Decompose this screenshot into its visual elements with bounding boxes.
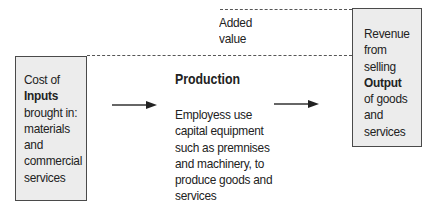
output-line: services	[364, 124, 410, 140]
arrow-head	[146, 101, 157, 109]
inputs-box-text: Cost of Inputs brought in: materials and…	[24, 72, 82, 186]
output-box: Revenue from selling Output of goods and…	[352, 8, 422, 147]
right-arrow-icon	[274, 98, 320, 110]
production-description: Employess use capital equipment such as …	[175, 107, 272, 205]
production-title: Production	[175, 71, 240, 87]
output-line: of goods	[364, 91, 410, 107]
production-line: Employess use	[175, 107, 272, 123]
added-value-bottom-dashed-line	[87, 55, 352, 56]
output-line: Revenue	[364, 26, 410, 42]
inputs-line: materials	[24, 121, 82, 137]
output-box-text: Revenue from selling Output of goods and…	[364, 26, 410, 140]
inputs-line: and	[24, 137, 82, 153]
right-arrow-icon	[112, 99, 158, 111]
output-line-bold: Output	[364, 75, 410, 91]
production-line: such as premnises	[175, 140, 272, 156]
output-line: from	[364, 42, 410, 58]
inputs-line: brought in:	[24, 105, 82, 121]
added-value-line: Added	[219, 15, 252, 31]
inputs-line-bold: Inputs	[24, 88, 82, 104]
inputs-line: services	[24, 170, 82, 186]
inputs-line: commercial	[24, 153, 82, 169]
added-value-line: value	[219, 31, 252, 47]
inputs-line: Cost of	[24, 72, 82, 88]
arrow-head	[308, 100, 319, 108]
production-line: services	[175, 188, 272, 204]
output-line: selling	[364, 59, 410, 75]
production-line: and machinery, to	[175, 156, 272, 172]
inputs-box: Cost of Inputs brought in: materials and…	[15, 56, 87, 201]
production-line: produce goods and	[175, 172, 272, 188]
added-value-label: Added value	[219, 15, 252, 48]
output-line: and	[364, 107, 410, 123]
production-line: capital equipment	[175, 123, 272, 139]
added-value-top-dashed-line	[220, 9, 352, 10]
